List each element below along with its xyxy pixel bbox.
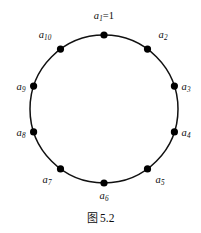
- node-label-a8: a8: [17, 128, 26, 140]
- graph-node-a8[interactable]: [30, 128, 37, 135]
- node-label-subscript: 6: [105, 195, 109, 203]
- graph-node-a10[interactable]: [57, 46, 64, 53]
- node-label-subscript: 3: [187, 86, 191, 94]
- node-label-a1: a1=1: [94, 11, 114, 23]
- circle-outline-group: [30, 35, 178, 183]
- node-label-a6: a6: [100, 191, 109, 203]
- node-label-suffix: =1: [103, 10, 114, 21]
- graph-node-a1[interactable]: [100, 31, 107, 38]
- node-label-a4: a4: [182, 128, 191, 140]
- node-label-a10: a10: [39, 30, 52, 42]
- node-label-a7: a7: [43, 175, 52, 187]
- node-label-a5: a5: [156, 175, 165, 187]
- graph-node-a3[interactable]: [171, 83, 178, 90]
- node-label-subscript: 5: [161, 179, 165, 187]
- caption-number: 5.2: [100, 212, 114, 224]
- node-label-subscript: 8: [22, 132, 26, 140]
- graph-nodes-group: [30, 31, 178, 186]
- graph-node-a5[interactable]: [144, 165, 151, 172]
- graph-node-a6[interactable]: [100, 179, 107, 186]
- node-label-subscript: 10: [44, 34, 51, 42]
- node-label-a9: a9: [17, 82, 26, 94]
- node-label-subscript: 2: [164, 34, 168, 42]
- graph-node-a9[interactable]: [30, 83, 37, 90]
- figure-container: a1=1a2a3a4a5a6a7a8a9a10 图5.2: [0, 0, 201, 233]
- node-label-subscript: 7: [48, 179, 52, 187]
- node-label-subscript: 9: [22, 86, 26, 94]
- figure-caption: 图5.2: [0, 209, 201, 225]
- graph-node-a7[interactable]: [57, 165, 64, 172]
- graph-node-a4[interactable]: [171, 128, 178, 135]
- graph-node-a2[interactable]: [144, 46, 151, 53]
- node-label-subscript: 4: [187, 132, 191, 140]
- node-label-a2: a2: [159, 30, 168, 42]
- node-label-a3: a3: [182, 82, 191, 94]
- circle-outline: [30, 35, 178, 183]
- caption-prefix-glyph: 图: [87, 212, 101, 225]
